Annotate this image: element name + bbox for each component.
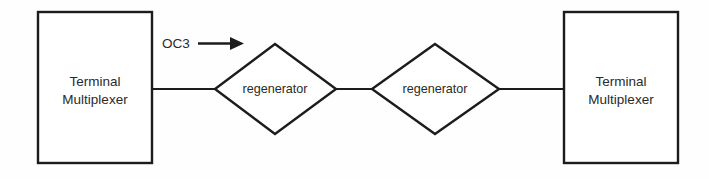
oc3-arrow-head-icon: [230, 37, 244, 50]
regenerator-2-label: regenerator: [402, 82, 467, 96]
terminal-multiplexer-left-line1: Terminal: [69, 74, 120, 89]
terminal-multiplexer-left-line2: Multiplexer: [62, 92, 128, 107]
terminal-multiplexer-right-line1: Terminal: [595, 74, 646, 89]
network-diagram: Terminal Multiplexer Terminal Multiplexe…: [0, 0, 709, 179]
oc3-label: OC3: [162, 36, 190, 51]
regenerator-1-label: regenerator: [242, 82, 307, 96]
terminal-multiplexer-right-line2: Multiplexer: [588, 92, 654, 107]
diagram-canvas: Terminal Multiplexer Terminal Multiplexe…: [0, 0, 709, 179]
